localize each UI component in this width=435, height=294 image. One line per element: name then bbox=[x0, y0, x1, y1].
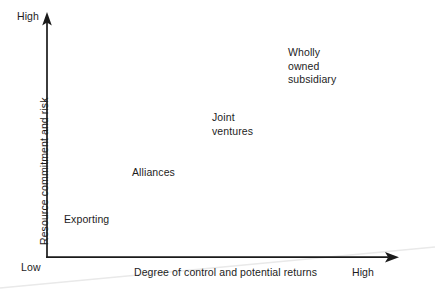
strategy-diagram: High Low Resource commitment and risk De… bbox=[0, 0, 435, 294]
y-axis-low-label: Low bbox=[21, 261, 41, 274]
node-label-alliances: Alliances bbox=[132, 166, 175, 180]
x-axis-high-label: High bbox=[352, 266, 374, 279]
y-axis-title: Resource commitment and risk bbox=[38, 97, 51, 245]
y-axis-high-label: High bbox=[17, 10, 39, 23]
node-label-exporting: Exporting bbox=[64, 213, 109, 227]
node-label-joint-ventures: Joint ventures bbox=[212, 111, 253, 138]
node-label-wholly-owned-subsidiary: Wholly owned subsidiary bbox=[288, 46, 336, 87]
x-axis-title: Degree of control and potential returns bbox=[134, 266, 317, 279]
axes-group bbox=[0, 0, 435, 294]
y-axis-title-container: Resource commitment and risk bbox=[26, 60, 40, 245]
